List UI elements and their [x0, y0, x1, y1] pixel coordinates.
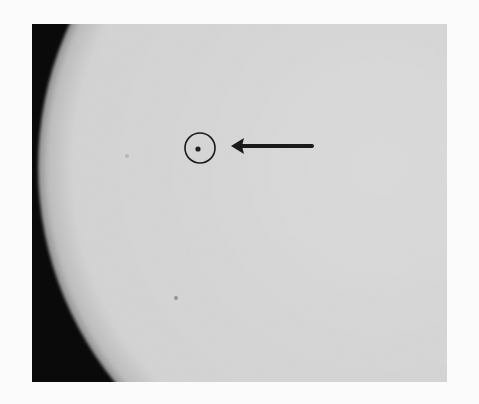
- sunspot: [195, 146, 200, 151]
- faint-spot: [174, 296, 178, 300]
- faint-spot: [125, 154, 129, 158]
- sun-photograph: [32, 24, 447, 382]
- sun-photo-canvas: [32, 24, 447, 382]
- solar-disk-grain: [40, 24, 447, 382]
